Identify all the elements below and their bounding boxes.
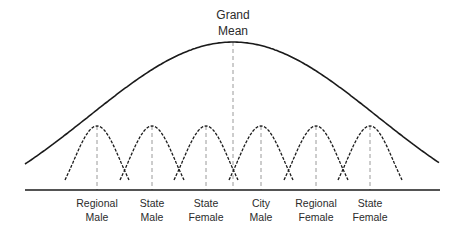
mean-guide-lines (97, 42, 370, 190)
label-line2: Female (335, 210, 405, 224)
grand-distribution-curve (25, 42, 439, 164)
grand-mean-label: Grand Mean (198, 7, 268, 39)
label-line1: State (335, 196, 405, 210)
grand-mean-label-line1: Grand (198, 7, 268, 23)
grand-mean-label-line2: Mean (198, 23, 268, 39)
subgroup-label-state-female-2: State Female (335, 196, 405, 224)
